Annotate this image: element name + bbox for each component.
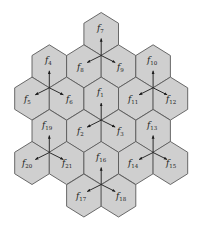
- hex-cell-diagram: f7f4f8f9f10f5f6f1f11f12f19f2f3f13f20f21f…: [0, 0, 203, 227]
